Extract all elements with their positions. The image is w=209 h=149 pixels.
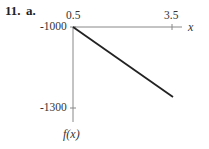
data-line: [73, 27, 173, 97]
y-tick-label-bottom: -1300: [40, 102, 67, 114]
x-tick-label-end: 3.5: [164, 10, 178, 22]
line-chart: [0, 0, 209, 149]
x-axis-label: x: [188, 21, 193, 33]
x-tick-label-start: 0.5: [66, 10, 80, 22]
y-tick-label-top: -1000: [40, 21, 67, 33]
y-axis-label: f(x): [63, 128, 80, 140]
